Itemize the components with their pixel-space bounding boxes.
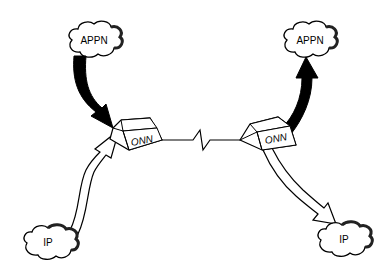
arrow-onn-to-ip-right: [263, 148, 336, 224]
cloud-appn-right: APPN: [284, 21, 337, 57]
arrow-ip-to-onn-left: [70, 130, 119, 234]
cloud-ip-left: IP: [24, 225, 78, 260]
appn-right-label: APPN: [296, 35, 323, 46]
ip-right-label: IP: [339, 234, 349, 245]
network-diagram: APPN APPN ONN ONN: [0, 0, 389, 276]
arrow-appn-to-onn-left: [74, 56, 113, 128]
zigzag-link: [162, 130, 240, 150]
ip-left-label: IP: [43, 237, 53, 248]
cloud-ip-right: IP: [318, 222, 372, 257]
onn-box-left: ONN: [110, 118, 162, 150]
appn-left-label: APPN: [80, 35, 107, 46]
cloud-appn-left: APPN: [69, 21, 122, 57]
arrow-onn-to-appn-right: [282, 57, 318, 134]
